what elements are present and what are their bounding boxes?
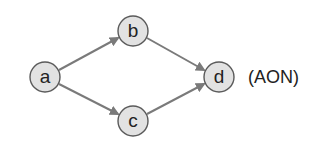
node-c-label: c [128,110,138,131]
edge-a-to-c [59,84,118,114]
node-b: b [118,16,148,46]
edge-b-to-d [147,38,204,70]
node-c: c [118,106,148,136]
edge-a-to-b [59,38,118,70]
node-d: d [204,62,234,92]
edge-c-to-d [147,84,204,114]
node-d-label: d [214,66,225,87]
node-a: a [30,62,60,92]
diagram-caption: (AON) [248,67,299,87]
node-a-label: a [40,66,51,87]
aon-network-diagram: a b c d (AON) [0,0,325,146]
node-b-label: b [128,20,139,41]
